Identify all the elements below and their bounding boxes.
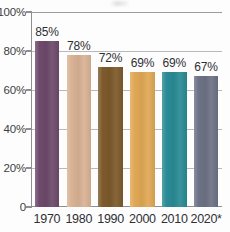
bar-value-label: 67% [186, 60, 226, 74]
scan-artifact [110, 1, 128, 6]
y-tick-80 [26, 50, 32, 51]
y-tick-40 [26, 128, 32, 129]
bar-1990 [98, 67, 123, 207]
y-axis-label: 60% [4, 84, 26, 96]
bar-2010 [162, 72, 187, 207]
bar-1970 [35, 41, 60, 207]
y-tick-20 [26, 167, 32, 168]
y-tick-100 [26, 11, 32, 12]
y-axis-label: 40% [4, 123, 26, 135]
x-axis-label: 2020* [184, 212, 228, 226]
y-tick-0 [26, 206, 32, 207]
y-tick-60 [26, 89, 32, 90]
y-axis-label: 100% [0, 6, 26, 18]
bar-1980 [67, 55, 92, 207]
bar-value-label: 85% [27, 25, 67, 39]
bar-2000 [130, 72, 155, 207]
gridline-100 [31, 12, 222, 13]
bar-2020 [194, 76, 219, 207]
y-axis-label: 80% [4, 45, 26, 57]
y-axis-label: 20% [4, 162, 26, 174]
bar-chart: 020%40%60%80%100% 85%78%72%69%69%67% 197… [0, 0, 230, 232]
